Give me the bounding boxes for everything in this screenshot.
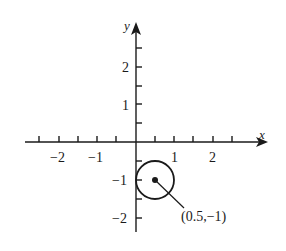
annotation-leader-line — [155, 180, 184, 208]
x-tick-label: 2 — [209, 150, 216, 165]
x-tick-label: −2 — [50, 150, 65, 165]
x-tick-label: −1 — [88, 150, 103, 165]
y-tick-label: 2 — [122, 60, 129, 75]
x-axis — [25, 136, 265, 142]
center-annotation: (0.5,−1) — [181, 209, 227, 225]
coordinate-plane-diagram: x y −2 −1 1 2 2 1 −1 −2 (0.5,−1) — [0, 0, 286, 251]
y-tick-label: −1 — [112, 173, 127, 188]
y-axis — [136, 26, 142, 232]
x-tick-label: 1 — [171, 150, 178, 165]
y-axis-label: y — [122, 18, 130, 33]
y-tick-label: 1 — [122, 98, 129, 113]
y-tick-label: −2 — [112, 211, 127, 226]
x-axis-label: x — [258, 127, 265, 142]
